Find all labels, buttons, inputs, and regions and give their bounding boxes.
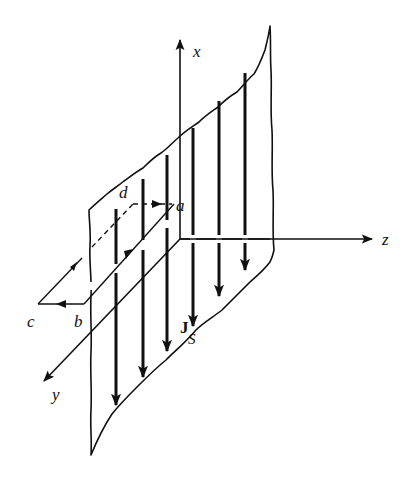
- loop-label-b: b: [74, 312, 83, 331]
- y-axis-label: y: [50, 385, 60, 404]
- amperian-loop: [38, 200, 174, 308]
- loop-segment-cd-behind: [92, 204, 133, 247]
- loop-label-a: a: [176, 196, 185, 215]
- current-density-subscript: S: [188, 331, 196, 347]
- y-axis: [44, 239, 180, 381]
- x-axis-label: x: [192, 42, 201, 61]
- z-axis-label: z: [381, 230, 389, 249]
- loop-label-c: c: [27, 312, 35, 331]
- current-sheet-diagram: x z y a: [0, 0, 410, 482]
- loop-label-d: d: [119, 183, 128, 202]
